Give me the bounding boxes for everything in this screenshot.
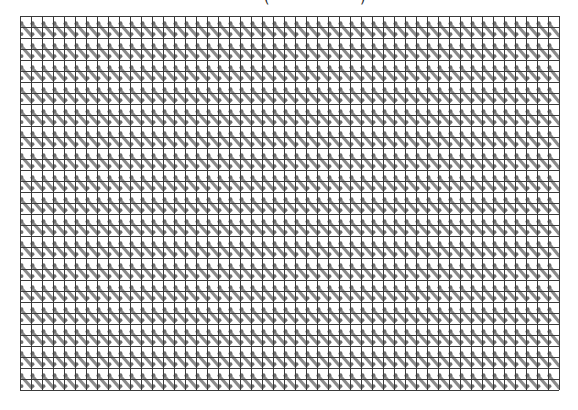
pattern-grid bbox=[20, 16, 560, 391]
title-fragment-left-paren: ( bbox=[264, 0, 269, 5]
title-fragment-right-paren: ) bbox=[360, 0, 365, 5]
grid-canvas bbox=[20, 16, 560, 391]
